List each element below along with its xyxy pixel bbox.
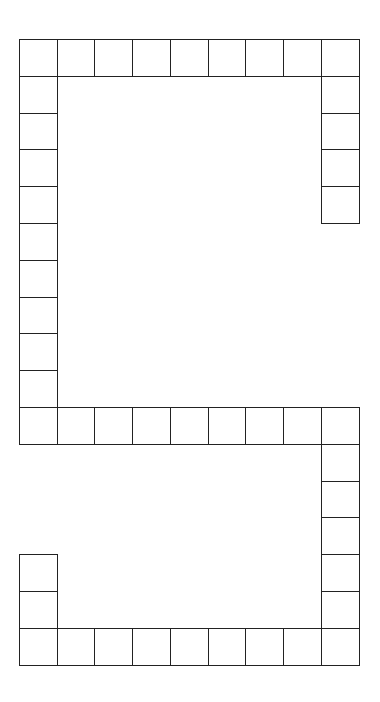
board-square bbox=[321, 39, 360, 77]
board-square bbox=[170, 628, 209, 666]
board-square bbox=[170, 407, 209, 445]
board-square bbox=[321, 554, 360, 592]
board-square bbox=[283, 39, 322, 77]
board-square bbox=[19, 76, 58, 114]
board-square bbox=[208, 39, 247, 77]
board-square bbox=[321, 113, 360, 151]
board-square bbox=[321, 186, 360, 224]
board-square bbox=[321, 76, 360, 114]
board-square bbox=[170, 39, 209, 77]
board-square bbox=[321, 517, 360, 555]
board-square bbox=[57, 407, 96, 445]
board-square bbox=[245, 39, 284, 77]
board-square bbox=[57, 628, 96, 666]
board-square bbox=[19, 370, 58, 408]
board-square bbox=[19, 113, 58, 151]
board-square bbox=[57, 39, 96, 77]
board-square bbox=[321, 591, 360, 629]
board-square bbox=[283, 407, 322, 445]
board-square bbox=[321, 444, 360, 482]
board-square bbox=[19, 186, 58, 224]
game-board-path bbox=[0, 0, 380, 702]
board-square bbox=[321, 149, 360, 187]
board-square bbox=[321, 407, 360, 445]
board-square bbox=[245, 407, 284, 445]
board-square bbox=[321, 628, 360, 666]
board-square bbox=[19, 149, 58, 187]
board-square bbox=[19, 333, 58, 371]
board-square bbox=[19, 554, 58, 592]
board-square bbox=[208, 407, 247, 445]
board-square bbox=[283, 628, 322, 666]
board-square bbox=[94, 628, 133, 666]
board-square bbox=[208, 628, 247, 666]
board-square bbox=[19, 407, 58, 445]
board-square bbox=[94, 407, 133, 445]
board-square bbox=[19, 591, 58, 629]
board-square bbox=[19, 297, 58, 335]
board-square bbox=[245, 628, 284, 666]
board-square bbox=[19, 39, 58, 77]
board-square bbox=[94, 39, 133, 77]
board-square bbox=[321, 481, 360, 519]
board-square bbox=[132, 628, 171, 666]
board-square bbox=[19, 628, 58, 666]
board-square bbox=[132, 407, 171, 445]
board-square bbox=[132, 39, 171, 77]
board-square bbox=[19, 223, 58, 261]
board-square bbox=[19, 260, 58, 298]
